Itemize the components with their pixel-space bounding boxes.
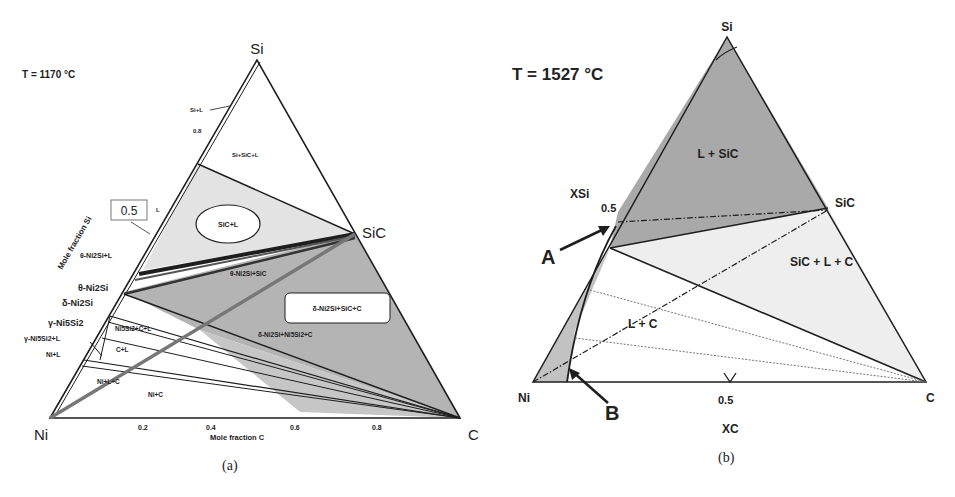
temperature-a: T = 1170 °C — [22, 69, 75, 80]
temperature-b: T = 1527 °C — [512, 65, 603, 84]
leader-line — [210, 106, 230, 110]
caption-b: (b) — [718, 450, 735, 466]
label-si-sic-l: Si+SiC+L — [232, 152, 259, 158]
vertex-ni-a: Ni — [34, 426, 48, 443]
boxed-05-text: 0.5 — [121, 204, 138, 218]
axis-si-label-a: Mole fraction Si — [56, 215, 94, 271]
vertex-sic-a: SiC — [362, 224, 386, 241]
vertex-si-a: Si — [250, 40, 263, 57]
tick-c-06: 0.6 — [290, 424, 300, 431]
label-theta-l: θ-Ni2Si+L — [80, 252, 113, 259]
label-theta: θ-Ni2Si — [78, 283, 108, 293]
panel-a: SiC+L δ-Ni2Si+SiC+C T = 1170 °C Si Ni C … — [22, 40, 479, 474]
vertex-sic-b: SiC — [835, 196, 855, 210]
label-ni5si2-c-l: Ni5Si2+C+L — [115, 325, 151, 332]
label-sic-l: SiC+L — [218, 221, 239, 228]
label-ni-l: Ni+L — [46, 351, 60, 358]
marker-a: A — [541, 246, 555, 268]
label-gamma: γ-Ni5Si2 — [48, 318, 84, 328]
label-delta: δ-Ni2Si — [62, 298, 93, 308]
vertex-c-b: C — [926, 391, 935, 405]
vertex-c-a: C — [468, 426, 479, 443]
label-ni-l-c: Ni+L+C — [97, 378, 120, 385]
axis-c-label-b: XC — [722, 422, 739, 436]
label-delta-sic-c: δ-Ni2Si+SiC+C — [313, 305, 362, 312]
axis-si-label-b: XSi — [570, 187, 589, 201]
vertex-ni-b: Ni — [518, 391, 530, 405]
panel-b: T = 1527 °C Si Ni C SiC L + SiC SiC + L … — [512, 20, 935, 466]
vertex-si-b: Si — [721, 20, 732, 34]
tick-c-02: 0.2 — [138, 424, 148, 431]
label-l-sic: L + SiC — [698, 147, 739, 161]
tick-c-08: 0.8 — [372, 424, 382, 431]
tick-si-08: 0.8 — [193, 128, 202, 134]
caption-a: (a) — [222, 458, 238, 474]
label-l-c: L + C — [628, 317, 658, 331]
label-ni-c: Ni+C — [148, 391, 163, 398]
marker-b: B — [605, 402, 619, 424]
tick-si-05-b: 0.5 — [601, 202, 616, 214]
label-l: L — [156, 207, 160, 213]
ternary-phase-diagrams: SiC+L δ-Ni2Si+SiC+C T = 1170 °C Si Ni C … — [0, 0, 955, 497]
label-theta-sic: θ-Ni2Si+SiC — [230, 270, 267, 277]
label-sic-l-c: SiC + L + C — [790, 255, 853, 269]
arrow-line — [131, 222, 150, 234]
axis-c-label-a: Mole fraction C — [210, 433, 265, 442]
label-gamma-l: γ-Ni5Si2+L — [24, 335, 61, 343]
label-c-l: C+L — [116, 346, 128, 353]
label-delta-ni5si2-c: δ-Ni2Si+Ni5Si2+C — [258, 331, 313, 338]
tick-c-04: 0.4 — [206, 424, 216, 431]
arrow-a — [560, 228, 606, 250]
tick-c-05-b: 0.5 — [718, 394, 733, 406]
label-si-l: Si+L — [190, 107, 203, 113]
